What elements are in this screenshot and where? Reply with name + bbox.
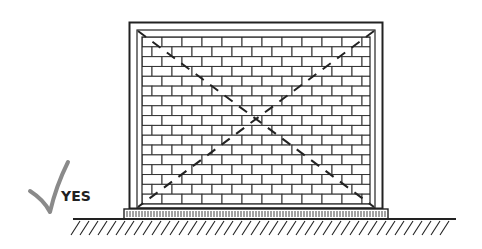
- brick-infill: [112, 37, 382, 204]
- check-mark-icon: [30, 162, 68, 212]
- base-plinth: [124, 209, 388, 219]
- infill-wall-diagram: [0, 0, 482, 249]
- verdict-label: YES: [61, 188, 91, 204]
- ground: [71, 219, 456, 235]
